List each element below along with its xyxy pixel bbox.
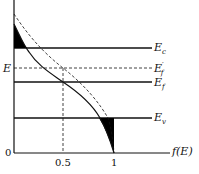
- tick-one: 1: [111, 158, 117, 168]
- ef-prime-label: E′f: [154, 62, 163, 77]
- fermi-curve-solid: [14, 24, 114, 153]
- fermi-dirac-diagram: E 0 0.5 1 f(E) Ec E′f Ef Ev: [0, 0, 199, 174]
- fermi-curve-dashed: [14, 14, 114, 153]
- y-axis-label: E: [3, 63, 11, 74]
- tick-half: 0.5: [55, 158, 71, 168]
- ef-label: Ef: [154, 77, 165, 91]
- ec-label: Ec: [154, 42, 166, 56]
- ev-label: Ev: [154, 112, 166, 126]
- diagram-canvas: [0, 0, 199, 174]
- origin-label: 0: [5, 148, 11, 158]
- x-axis-label: f(E): [172, 146, 193, 157]
